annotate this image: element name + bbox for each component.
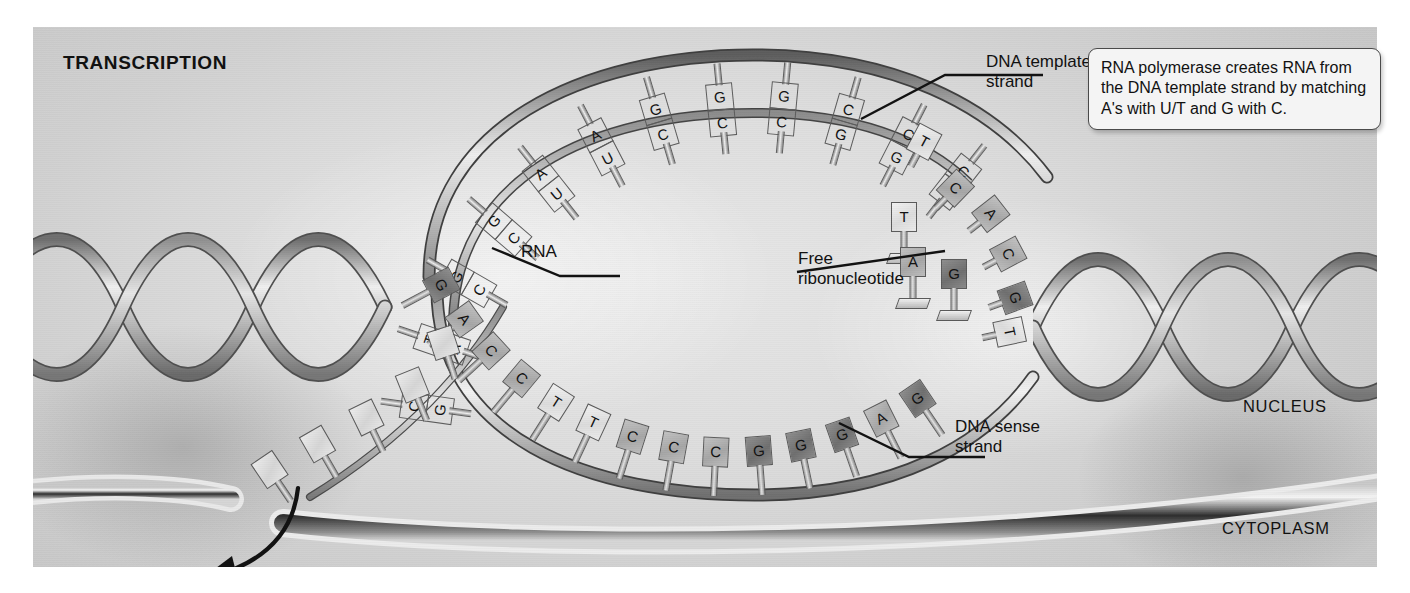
base-stem: [609, 166, 625, 189]
base-stem: [879, 165, 895, 188]
rna-exit-base: [299, 425, 337, 464]
nucleotide-base: G: [745, 435, 773, 467]
label-rna: RNA: [521, 242, 557, 262]
nucleotide-stand: [936, 310, 972, 321]
label-dna-template-strand: DNA template strand: [986, 52, 1091, 92]
nucleotide-base: C: [616, 419, 650, 455]
nucleotide-stem: [951, 288, 958, 310]
sense-strand-base: T: [537, 383, 575, 422]
base-stem: [485, 292, 508, 309]
nucleotide-stem: [275, 479, 294, 503]
sense-strand-base: C: [616, 419, 650, 455]
nucleotide-base: A: [900, 247, 926, 277]
rna-export-arrow-icon: [198, 482, 328, 567]
template-unpaired-base: C: [989, 235, 1028, 272]
callout-box: RNA polymerase creates RNA from the DNA …: [1088, 48, 1381, 130]
base-pair: GC: [639, 93, 679, 150]
nucleotide-stem: [401, 288, 431, 308]
sense-strand-base: C: [658, 430, 689, 464]
nucleotide-stem: [616, 449, 632, 480]
nucleotide-stem: [800, 458, 813, 489]
rna-exit-base: [348, 398, 385, 436]
base-stem: [713, 63, 722, 86]
nucleotide-stem: [321, 454, 339, 478]
nucleotide-stem: [756, 465, 765, 495]
nucleotide-base: [348, 398, 385, 436]
base-pair: AU: [577, 117, 625, 175]
sense-strand-base: T: [575, 403, 611, 441]
sense-strand-base: A: [862, 399, 899, 437]
callout-text: RNA polymerase creates RNA from the DNA …: [1101, 59, 1366, 117]
base-pair: GC: [768, 82, 800, 135]
nucleotide-stem: [529, 413, 551, 442]
free-ribonucleotide: A: [900, 247, 926, 277]
sense-strand-base: G: [824, 416, 858, 453]
base-pair: GC: [705, 82, 737, 136]
label-nucleus: NUCLEUS: [1243, 397, 1327, 416]
nucleotide-base: C: [989, 235, 1028, 272]
nucleotide-base: T: [575, 403, 611, 441]
sense-strand-base: C: [702, 436, 729, 467]
nucleotide-base: G: [941, 259, 967, 289]
nucleotide-stem: [910, 276, 917, 298]
nucleotide-stem: [491, 387, 516, 415]
nucleotide-stem: [922, 408, 945, 437]
sense-strand-base: C: [502, 359, 541, 399]
label-free-ribonucleotide: Free ribonucleotide: [798, 249, 904, 289]
nucleotide-base: [299, 425, 337, 464]
nucleotide-base: G: [824, 416, 858, 453]
base-stem: [829, 143, 842, 166]
nucleotide-stem: [982, 257, 998, 270]
nucleotide-stand: [895, 298, 931, 309]
nucleotide-stem: [967, 220, 982, 234]
page-title: TRANSCRIPTION: [63, 52, 227, 74]
sense-strand-base: G: [745, 435, 773, 467]
nucleotide-stem: [843, 446, 859, 477]
nucleotide-base: T: [992, 316, 1027, 348]
base-stem: [449, 408, 472, 418]
nucleotide-stem: [884, 430, 904, 460]
dna-double-helix-left: [33, 157, 393, 427]
nucleotide-stem: [982, 331, 997, 341]
nucleotide-base: G: [785, 428, 817, 463]
nucleotide-stem: [988, 299, 1004, 310]
template-unpaired-base: A: [971, 194, 1011, 233]
nucleotide-stem: [663, 460, 675, 491]
label-dna-sense-strand: DNA sense strand: [955, 417, 1040, 457]
nucleotide-base: C: [658, 430, 689, 464]
nucleotide-base: T: [891, 202, 917, 232]
base-stem: [719, 132, 728, 155]
nucleotide-stem: [369, 429, 386, 454]
base-pair: CG: [825, 93, 865, 150]
free-ribonucleotide: G: [941, 259, 967, 289]
label-cytoplasm: CYTOPLASM: [1222, 519, 1330, 538]
template-unpaired-base: G: [997, 281, 1034, 316]
base-stem: [662, 143, 675, 166]
nucleotide-stem: [710, 465, 719, 495]
free-ribonucleotide: T: [891, 202, 917, 232]
base-stem: [776, 132, 785, 155]
template-base: G: [705, 82, 735, 112]
base-stem: [560, 199, 579, 221]
sense-strand-base: G: [898, 378, 936, 417]
nucleotide-base: A: [862, 399, 899, 437]
nucleotide-base: G: [997, 281, 1034, 316]
sense-strand-base: G: [785, 428, 817, 463]
nucleotide-base: C: [702, 436, 729, 467]
base-pair: AU: [522, 154, 575, 211]
template-unpaired-base: T: [992, 316, 1027, 348]
rna-exit-base: [250, 450, 288, 489]
sense-strand-base: C: [471, 331, 511, 370]
figure-canvas: CGTAGCGCAUAUGCGCGCCGCGCG TCACGT TAG GACC…: [0, 0, 1410, 593]
nucleotide-stem: [571, 434, 590, 464]
